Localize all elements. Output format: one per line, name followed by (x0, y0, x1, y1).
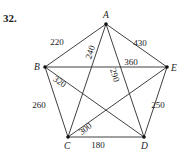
edge-weight-bc: 260 (32, 100, 46, 110)
problem-number: 32. (3, 12, 17, 24)
edge-weight-be: 360 (124, 57, 138, 67)
edge-weight-ce: 300 (77, 120, 94, 136)
edge-weight-cd: 180 (91, 140, 105, 150)
vertex-label-b: B (34, 62, 40, 72)
vertex-e-dot (165, 65, 169, 69)
vertex-label-a: A (102, 10, 109, 20)
vertex-a-dot (104, 22, 108, 26)
vertex-label-d: D (140, 141, 148, 151)
edge-weight-ab: 220 (50, 37, 64, 47)
vertex-d-dot (142, 135, 146, 139)
vertex-label-c: C (64, 141, 71, 151)
edge-weight-ad: 290 (108, 67, 122, 83)
vertex-label-e: E (170, 63, 177, 73)
edge-weight-de: 250 (151, 100, 165, 110)
edge-weight-bd: 320 (51, 74, 68, 90)
vertex-b-dot (43, 65, 47, 69)
edge-weight-ae: 430 (133, 38, 147, 48)
vertex-c-dot (66, 135, 70, 139)
graph-canvas: 32. 220430240290360320260300180250 ABCDE (0, 0, 179, 152)
graph-diagram: 32. 220430240290360320260300180250 ABCDE (0, 0, 179, 152)
